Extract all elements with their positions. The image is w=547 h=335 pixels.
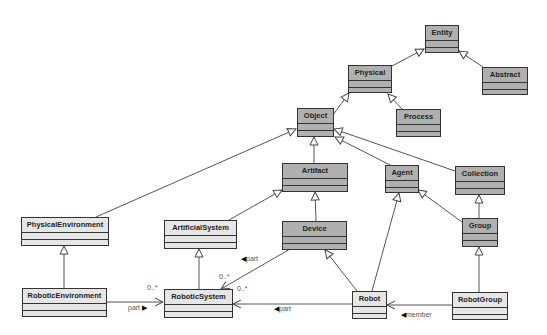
class-operations <box>283 244 346 249</box>
class-attributes <box>283 237 346 244</box>
class-name: Process <box>397 110 440 125</box>
class-name: Robot <box>353 292 386 307</box>
gen-device-artifact <box>315 192 316 221</box>
class-operations <box>22 240 108 245</box>
class-operations <box>165 312 232 317</box>
class-agent[interactable]: Agent <box>385 165 419 193</box>
gen-object-physical <box>333 93 349 115</box>
assoc-label-device-part: ◀part <box>241 255 258 263</box>
class-object[interactable]: Object <box>297 108 334 137</box>
assoc-label-env-part: part ▶ <box>128 304 147 312</box>
class-robotic-system[interactable]: RoboticSystem <box>164 289 233 318</box>
class-group[interactable]: Group <box>462 218 498 247</box>
class-name: Group <box>463 219 497 234</box>
class-attributes <box>463 234 497 241</box>
class-operations <box>483 90 527 94</box>
class-attributes <box>426 41 458 48</box>
assoc-label-text: member <box>406 311 432 318</box>
class-name: RobotGroup <box>453 293 507 308</box>
class-physical[interactable]: Physical <box>348 65 392 93</box>
class-name: RoboticSystem <box>165 290 232 305</box>
class-name: Abstract <box>483 68 527 83</box>
class-operations <box>463 241 497 246</box>
class-robot[interactable]: Robot <box>352 291 387 319</box>
assoc-label-text: part <box>279 305 291 312</box>
direction-arrow-icon: ▶ <box>142 304 147 311</box>
class-attributes <box>483 83 527 90</box>
class-operations <box>23 311 106 316</box>
class-abstract[interactable]: Abstract <box>482 67 528 95</box>
class-entity[interactable]: Entity <box>425 25 459 53</box>
class-attributes <box>397 125 440 132</box>
class-name: Object <box>298 109 333 124</box>
assoc-label-robot-part: ◀part <box>274 305 291 313</box>
assoc-label-text: part <box>246 255 258 262</box>
gen-robot-device <box>325 250 357 291</box>
class-attributes <box>353 307 386 314</box>
class-attributes <box>453 308 507 315</box>
class-attributes <box>22 233 108 240</box>
class-name: RoboticEnvironment <box>23 289 106 304</box>
class-operations <box>349 88 391 92</box>
class-operations <box>165 243 236 248</box>
class-name: PhysicalEnvironment <box>22 218 108 233</box>
multiplicity-robot-part: 0..* <box>237 285 248 292</box>
class-process[interactable]: Process <box>396 109 441 137</box>
gen-artsys-object <box>229 190 282 220</box>
class-name: Physical <box>349 66 391 81</box>
gen-abstract-entity <box>459 51 483 67</box>
class-operations <box>298 131 333 136</box>
class-operations <box>386 188 418 192</box>
class-attributes <box>165 236 236 243</box>
class-attributes <box>165 305 232 312</box>
class-physical-environment[interactable]: PhysicalEnvironment <box>21 217 109 246</box>
gen-agent-object <box>335 137 390 165</box>
class-operations <box>456 189 504 194</box>
gen-robot-agent <box>372 193 399 291</box>
class-name: Collection <box>456 167 504 182</box>
class-operations <box>353 314 386 318</box>
gen-process-physical <box>388 94 402 109</box>
class-name: Agent <box>386 166 418 181</box>
class-name: Device <box>283 222 346 237</box>
class-operations <box>426 48 458 52</box>
class-artificial-system[interactable]: ArtificialSystem <box>164 220 237 249</box>
class-operations <box>397 132 440 136</box>
multiplicity-device-part: 0..* <box>219 273 230 280</box>
class-robot-group[interactable]: RobotGroup <box>452 292 508 320</box>
class-device[interactable]: Device <box>282 221 347 250</box>
class-attributes <box>283 179 347 186</box>
class-operations <box>453 315 507 319</box>
multiplicity-env-part: 0..* <box>147 284 158 291</box>
class-attributes <box>456 182 504 189</box>
assoc-label-text: part <box>128 304 140 311</box>
class-attributes <box>349 81 391 88</box>
class-name: ArtificialSystem <box>165 221 236 236</box>
gen-physenv-object <box>96 129 296 217</box>
class-name: Artifact <box>283 164 347 179</box>
class-operations <box>283 186 347 191</box>
class-collection[interactable]: Collection <box>455 166 505 195</box>
assoc-label-member: ◀member <box>401 311 432 319</box>
class-name: Entity <box>426 26 458 41</box>
class-attributes <box>23 304 106 311</box>
gen-physical-entity <box>392 49 424 66</box>
class-attributes <box>298 124 333 131</box>
class-robotic-environment[interactable]: RoboticEnvironment <box>22 288 107 317</box>
class-artifact[interactable]: Artifact <box>282 163 348 192</box>
class-attributes <box>386 181 418 188</box>
